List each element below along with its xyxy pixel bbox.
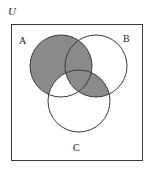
set-label-c: C xyxy=(73,142,80,153)
set-label-a: A xyxy=(19,35,27,46)
venn-diagram: U A B C xyxy=(0,0,152,169)
set-label-b: B xyxy=(123,33,130,44)
universe-label: U xyxy=(8,5,17,17)
